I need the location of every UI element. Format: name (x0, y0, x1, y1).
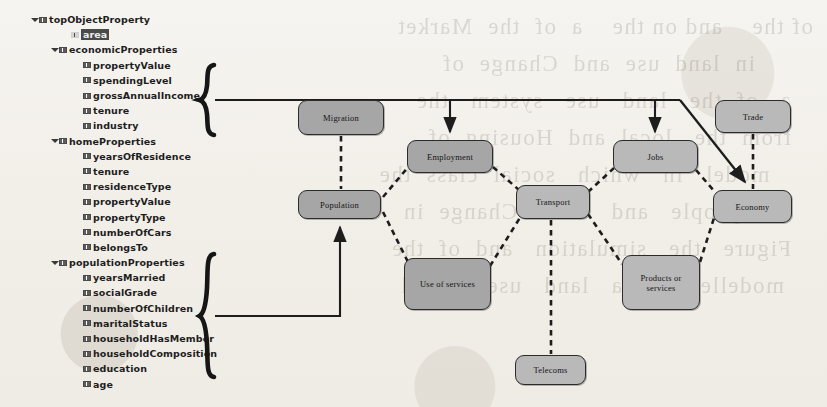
diagram-node-label: Jobs (648, 152, 664, 162)
diagram-node-jobs[interactable]: Jobs (613, 140, 698, 173)
economic-properties-brace (200, 65, 215, 135)
diagram-node-label: Trade (743, 112, 764, 122)
diagram-node-population[interactable]: Population (298, 190, 381, 219)
diagram-node-label: Employment (427, 152, 473, 162)
link-transport-jobs (588, 168, 614, 192)
diagram-node-label: Telecoms (533, 365, 567, 375)
diagram-node-use-of-services[interactable]: Use of services (404, 258, 491, 310)
link-population-use-of-services (383, 212, 408, 262)
link-employment-transport (493, 167, 519, 190)
population-properties-brace (200, 254, 215, 377)
link-products-or-services-economy (700, 218, 714, 262)
diagram-node-label: Transport (536, 197, 571, 207)
diagram-connectors (0, 0, 827, 407)
diagram-node-label: Population (320, 200, 359, 210)
diagram-node-employment[interactable]: Employment (407, 140, 493, 173)
diagram-node-label: Economy (736, 202, 770, 212)
link-jobs-economy (696, 170, 715, 192)
diagram-node-products-or-services[interactable]: Products or services (622, 255, 700, 310)
diagram-node-telecoms[interactable]: Telecoms (515, 355, 586, 385)
diagram-node-label: Use of services (420, 279, 475, 289)
diagram-node-migration[interactable]: Migration (298, 100, 384, 135)
diagram-node-label: Migration (323, 113, 359, 123)
diagram-node-label: Products or services (626, 273, 696, 293)
link-transport-products-or-services (588, 214, 622, 264)
diagram-node-transport[interactable]: Transport (516, 185, 590, 219)
population-brace-trunk (215, 227, 340, 316)
diagram-node-economy[interactable]: Economy (713, 190, 792, 223)
diagram-node-trade[interactable]: Trade (715, 100, 791, 133)
conceptual-domain-diagram: MigrationPopulationEmploymentUse of serv… (0, 0, 827, 407)
link-use-of-services-transport (490, 216, 521, 266)
link-population-employment (383, 166, 409, 197)
